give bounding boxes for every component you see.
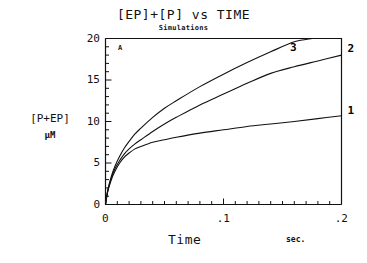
plot-canvas bbox=[0, 0, 367, 263]
data-curves bbox=[106, 39, 342, 205]
curve-3 bbox=[106, 39, 313, 205]
curve-1 bbox=[106, 116, 342, 205]
chart-figure: [EP]+[P] vs TIME Simulations [P+EP] µM T… bbox=[0, 0, 367, 263]
